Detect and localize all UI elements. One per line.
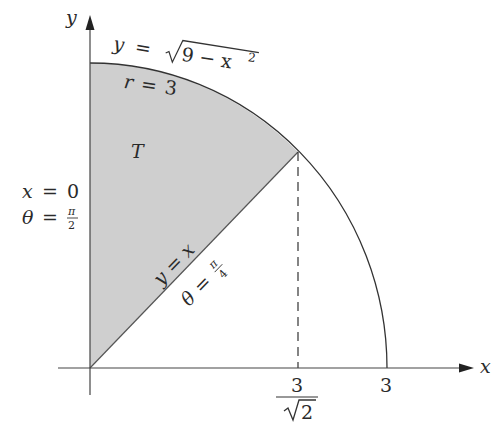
x-axis-arrow-icon [459,364,474,373]
label-eq: = [134,35,153,59]
region-t-shading [90,63,298,368]
label-eq: = [140,72,159,96]
tick-3-over-root2-numerator: 3 [291,374,303,396]
region-label-t: T [131,140,145,162]
x-axis-label: x [480,355,491,377]
label-yaxis-cartesian: x = 0 [22,180,79,202]
label-0: 0 [67,180,79,202]
label-eq: = [42,206,58,228]
label-4: 4 [216,267,230,281]
label-pi: π [67,205,76,218]
label-eq: = [189,270,216,297]
label-theta: θ [22,206,34,228]
y-axis-label: y [65,6,77,28]
diagram-canvas: y x 3 2 3 T y = 9 − x 2 r = 3 x = 0 θ = … [0,0,500,438]
tick-3: 3 [380,374,392,396]
tick-3-over-root2-denominator: 2 [284,400,316,423]
y-axis-arrow-icon [86,15,95,30]
radicand-2: 2 [301,401,313,423]
label-y: y [111,32,126,56]
label-2: 2 [68,219,75,232]
label-x: x [22,180,33,202]
label-eq: = [42,180,58,202]
label-exponent: 2 [247,50,257,65]
label-yaxis-polar: θ = π 2 [22,205,78,232]
